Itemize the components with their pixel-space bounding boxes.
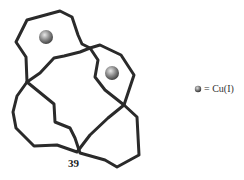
copper-sphere-icon xyxy=(194,85,202,93)
copper-ion-1 xyxy=(39,30,53,44)
legend: = Cu(I) xyxy=(194,83,234,94)
copper-ion-2 xyxy=(105,66,119,80)
compound-number-label: 39 xyxy=(68,157,79,169)
legend-text: = Cu(I) xyxy=(204,83,234,94)
strand-upper-loop xyxy=(16,11,134,105)
